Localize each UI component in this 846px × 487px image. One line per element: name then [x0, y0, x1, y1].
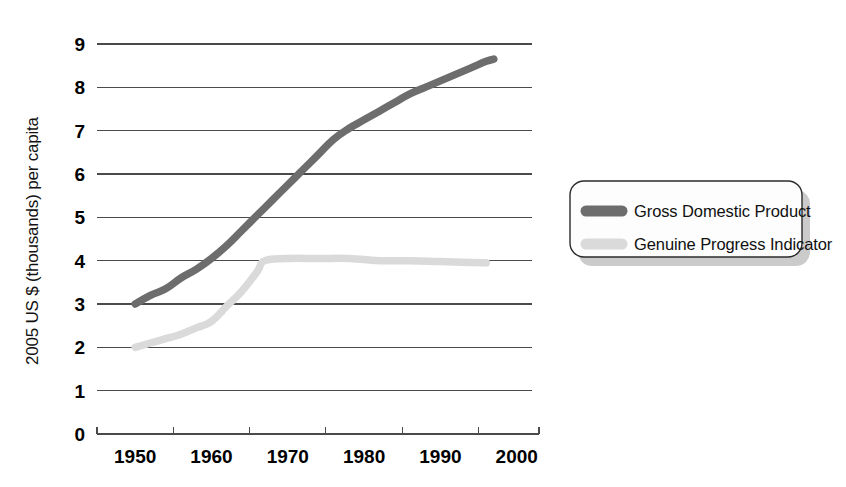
y-tick-label-8: 8	[74, 77, 85, 98]
legend-label-0: Gross Domestic Product	[634, 202, 811, 220]
x-axis-tick-labels: 195019601970198019902000	[114, 446, 538, 467]
y-tick-label-1: 1	[74, 381, 85, 402]
chart-legend: Gross Domestic ProductGenuine Progress I…	[570, 181, 833, 266]
y-tick-label-6: 6	[74, 164, 85, 185]
legend-label-1: Genuine Progress Indicator	[634, 235, 833, 253]
y-axis-tick-labels: 0123456789	[74, 34, 85, 445]
x-tick-label-2000: 2000	[496, 446, 538, 467]
line-chart: 2005 US $ (thousands) per capita 0123456…	[0, 0, 846, 487]
y-tick-label-4: 4	[74, 251, 85, 272]
x-tick-label-1950: 1950	[114, 446, 156, 467]
series-line-gross-domestic-product	[135, 59, 494, 304]
x-tick-label-1980: 1980	[343, 446, 385, 467]
y-tick-label-0: 0	[74, 424, 85, 445]
y-tick-label-5: 5	[74, 207, 85, 228]
x-tick-label-1960: 1960	[190, 446, 232, 467]
chart-figure: 2005 US $ (thousands) per capita 0123456…	[0, 0, 846, 487]
x-tick-label-1990: 1990	[419, 446, 461, 467]
y-tick-label-9: 9	[74, 34, 85, 55]
y-tick-label-3: 3	[74, 294, 85, 315]
x-axis	[97, 427, 539, 434]
y-tick-label-2: 2	[74, 337, 85, 358]
x-tick-label-1970: 1970	[267, 446, 309, 467]
y-axis-title: 2005 US $ (thousands) per capita	[23, 116, 42, 365]
y-tick-label-7: 7	[74, 121, 85, 142]
